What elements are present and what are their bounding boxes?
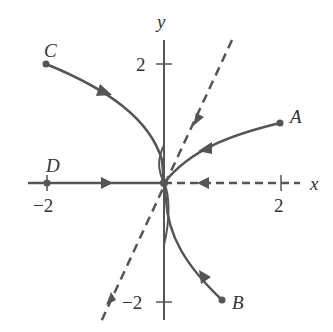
- trajectory-A: [164, 123, 280, 183]
- trajectory-C: [46, 64, 164, 183]
- label-C: C: [44, 40, 57, 61]
- arrow-D: [101, 177, 113, 189]
- arrow-x-positive: [197, 177, 209, 189]
- point-D: [44, 180, 51, 187]
- phase-portrait: y x 2 −2 −2 2 C A B D: [0, 0, 333, 332]
- y-axis-label: y: [155, 11, 166, 32]
- point-A: [277, 120, 284, 127]
- point-C: [43, 61, 50, 68]
- y-tick-label-neg2: −2: [122, 292, 142, 313]
- origin-point: [160, 179, 168, 187]
- arrow-C: [96, 84, 112, 96]
- x-axis-label: x: [309, 173, 319, 194]
- label-A: A: [288, 106, 302, 127]
- y-tick-label-2: 2: [136, 54, 146, 75]
- x-tick-label-neg2: −2: [33, 195, 53, 216]
- label-B: B: [232, 292, 244, 313]
- point-B: [219, 297, 226, 304]
- label-D: D: [45, 155, 60, 176]
- x-tick-label-2: 2: [274, 195, 284, 216]
- arrow-dashed-upper: [193, 113, 204, 126]
- trajectory-B: [164, 183, 222, 300]
